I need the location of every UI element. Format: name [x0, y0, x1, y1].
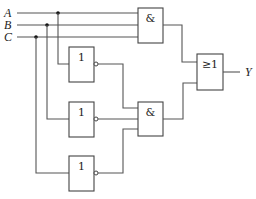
not-gate-3-symbol: 1	[78, 160, 85, 173]
not-gate-1: 1	[69, 47, 98, 82]
wire-not1-to-and2	[98, 64, 138, 108]
wire-not3-to-and2	[98, 129, 138, 173]
or-gate: ≥1	[197, 54, 223, 90]
not-gate-1-symbol: 1	[78, 51, 85, 64]
and-gate-2: &	[138, 102, 163, 136]
and-gate-2-symbol: &	[146, 106, 156, 119]
wire-a-to-not1	[58, 13, 69, 64]
input-label-c: C	[4, 30, 13, 44]
not-gate-3-bubble	[94, 171, 98, 175]
wire-c-to-not3	[36, 37, 69, 173]
and-gate-1: &	[138, 8, 163, 43]
not-gate-3: 1	[69, 156, 98, 191]
output-label-y: Y	[245, 65, 253, 79]
not-gate-1-bubble	[94, 62, 98, 66]
not-gate-2: 1	[69, 102, 98, 137]
wire-and1-to-or	[163, 25, 197, 62]
wire-and2-to-or	[163, 83, 197, 119]
not-gate-2-bubble	[94, 117, 98, 121]
or-gate-symbol: ≥1	[202, 58, 218, 71]
logic-circuit-diagram: A B C & 1 1 1 &	[0, 0, 256, 199]
not-gate-2-symbol: 1	[78, 106, 85, 119]
and-gate-1-symbol: &	[146, 12, 156, 25]
